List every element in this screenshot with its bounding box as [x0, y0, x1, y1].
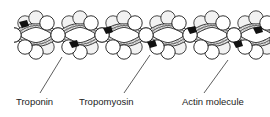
actin-bead: [172, 16, 186, 30]
label-actin-molecule: Actin molecule: [182, 97, 244, 107]
actin-bead: [84, 16, 98, 30]
actin-bead: [139, 28, 153, 42]
actin-bead: [194, 40, 208, 54]
actin-bead: [106, 40, 120, 54]
actin-bead: [40, 16, 54, 30]
leader-line-actin: [204, 60, 228, 93]
label-troponin: Troponin: [16, 97, 53, 107]
actin-bead: [18, 40, 32, 54]
actin-bead: [128, 16, 142, 30]
leader-lines: [40, 55, 228, 93]
actin-bead: [7, 28, 21, 42]
label-tropomyosin: Tropomyosin: [79, 97, 134, 107]
leader-line-tropomyosin: [124, 55, 150, 93]
leader-line-troponin: [40, 57, 62, 93]
actin-bead: [216, 16, 230, 30]
thin-filament-diagram: Troponin Tropomyosin Actin molecule: [0, 0, 270, 117]
actin-bead: [227, 28, 241, 42]
actin-bead: [51, 28, 65, 42]
actin-filament: [0, 11, 270, 59]
